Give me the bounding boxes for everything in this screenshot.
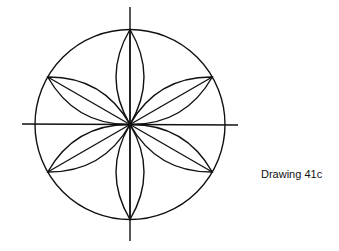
rosette-drawing	[0, 0, 260, 251]
drawing-caption: Drawing 41c	[261, 168, 322, 180]
